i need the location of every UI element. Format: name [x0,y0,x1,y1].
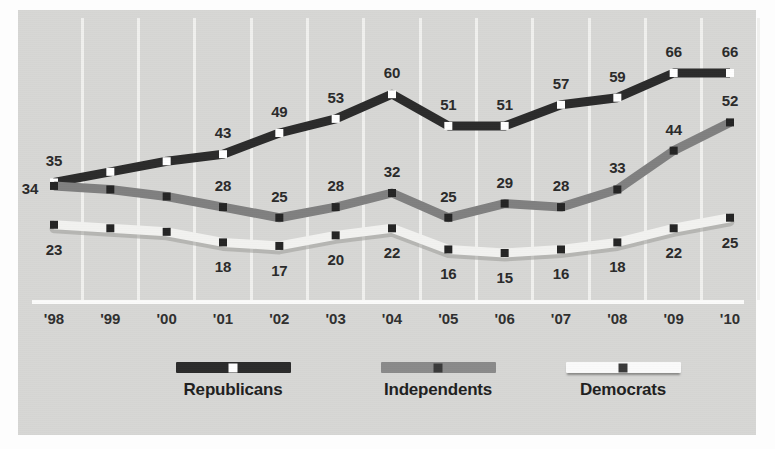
data-point-marker [388,90,396,98]
value-label: 28 [328,177,344,194]
x-axis-tick-label: '04 [382,310,402,327]
x-axis-tick-label: '09 [664,310,684,327]
x-axis-tick-label: '01 [213,310,233,327]
data-point-marker [501,122,509,130]
x-axis-tick-label: '03 [326,310,346,327]
data-point-marker [444,122,452,130]
data-point-marker [219,238,227,246]
value-label: 52 [722,92,738,109]
value-label: 17 [271,261,287,278]
value-label: 51 [497,95,513,112]
legend-swatch [566,362,681,373]
value-label: 22 [666,244,682,261]
data-point-marker [106,185,114,193]
x-axis-tick-label: '06 [495,310,515,327]
value-label: 22 [384,244,400,261]
legend-label: Independents [348,380,528,400]
legend-item-republicans[interactable]: Republicans [143,362,323,400]
data-point-marker [557,101,565,109]
legend-swatch [381,362,496,373]
value-label: 57 [553,74,569,91]
data-point-marker [275,129,283,137]
data-point-marker [106,168,114,176]
value-label: 35 [46,152,62,169]
data-point-marker [50,221,58,229]
data-point-marker [670,69,678,77]
data-point-marker [557,245,565,253]
value-label: 60 [384,64,400,81]
data-point-marker [501,200,509,208]
chart-panel: 3543495360515157596666342825283225292833… [18,10,756,435]
value-label: 20 [328,251,344,268]
data-point-marker [613,94,621,102]
value-label: 18 [215,258,231,275]
data-point-marker [444,214,452,222]
value-label: 66 [722,43,738,60]
data-point-marker [444,245,452,253]
data-point-marker [219,150,227,158]
plot-area: 3543495360515157596666342825283225292833… [18,10,756,300]
value-label: 53 [328,88,344,105]
value-label: 25 [271,187,287,204]
legend-item-independents[interactable]: Independents [348,362,528,400]
data-point-marker [501,249,509,257]
value-label: 66 [666,43,682,60]
gridline [757,18,760,300]
value-label: 29 [497,173,513,190]
value-label: 43 [215,124,231,141]
value-label: 59 [609,67,625,84]
data-point-marker [163,193,171,201]
legend-label: Democrats [533,380,713,400]
x-axis-line [32,300,744,304]
value-label: 32 [384,163,400,180]
value-label: 18 [609,258,625,275]
data-point-marker [388,189,396,197]
data-point-marker [388,224,396,232]
legend-label: Republicans [143,380,323,400]
data-point-marker [275,214,283,222]
x-axis-tick-label: '05 [438,310,458,327]
x-axis-tick-label: '10 [720,310,740,327]
value-label: 49 [271,103,287,120]
value-label: 28 [215,177,231,194]
value-label: 23 [46,240,62,257]
legend-marker [619,363,628,372]
value-label: 16 [440,265,456,282]
data-point-marker [726,118,734,126]
series-lines [18,10,756,310]
x-axis-tick-label: '00 [157,310,177,327]
value-label: 15 [497,269,513,286]
legend-swatch [176,362,291,373]
legend-marker [434,363,443,372]
x-axis-tick-label: '07 [551,310,571,327]
data-point-marker [163,228,171,236]
data-point-marker [332,203,340,211]
data-point-marker [670,224,678,232]
x-axis-tick-label: '02 [269,310,289,327]
data-point-marker [557,203,565,211]
data-point-marker [613,185,621,193]
data-point-marker [726,69,734,77]
value-label: 44 [666,120,682,137]
legend-item-democrats[interactable]: Democrats [533,362,713,400]
value-label: 16 [553,265,569,282]
data-point-marker [670,147,678,155]
value-label: 34 [22,179,38,196]
chart-legend: RepublicansIndependentsDemocrats [18,362,756,422]
x-axis-tick-label: '08 [607,310,627,327]
legend-marker [229,363,238,372]
data-point-marker [726,214,734,222]
x-axis-tick-label: '99 [100,310,120,327]
data-point-marker [163,157,171,165]
value-label: 33 [609,159,625,176]
data-point-marker [106,224,114,232]
value-label: 51 [440,95,456,112]
value-label: 25 [440,187,456,204]
data-point-marker [50,182,58,190]
value-label: 28 [553,177,569,194]
value-label: 25 [722,233,738,250]
data-point-marker [332,115,340,123]
x-axis-tick-label: '98 [44,310,64,327]
data-point-marker [332,231,340,239]
data-point-marker [613,238,621,246]
